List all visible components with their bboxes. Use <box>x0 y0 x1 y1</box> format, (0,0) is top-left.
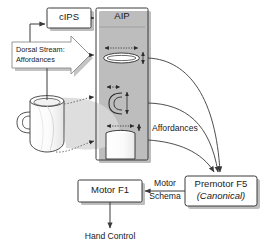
premotor-f5-label-line2: (Canonical) <box>185 191 257 202</box>
affordances-curved-arrows <box>148 58 220 172</box>
hand-control-label: Hand Control <box>70 232 150 242</box>
cips-label: cIPS <box>47 12 91 23</box>
aip-label: AIP <box>96 11 148 22</box>
diagram-canvas: cIPS AIP Dorsal Stream: Affordances Affo… <box>0 0 262 251</box>
motor-schema-label-line1: Motor <box>146 179 184 189</box>
dorsal-stream-label-line2: Affordances <box>16 55 55 64</box>
motor-f1-label: Motor F1 <box>78 185 142 196</box>
motor-schema-label-line2: Schema <box>144 192 186 202</box>
premotor-f5-label-line1: Premotor F5 <box>185 179 257 190</box>
affordances-label: Affordances <box>152 124 198 134</box>
dorsal-stream-label-line1: Dorsal Stream: <box>16 45 65 54</box>
diagram-graphics <box>0 0 262 251</box>
